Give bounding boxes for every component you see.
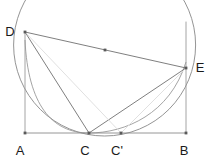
point-marker-B: [185, 132, 188, 135]
segment-group: [25, 22, 186, 133]
vertex-label-C-prime: C': [111, 143, 123, 158]
vertex-label-group: A C C' B D E: [5, 24, 204, 158]
segment-DC: [25, 32, 89, 133]
point-marker-A: [24, 132, 27, 135]
segment-DCprime: [25, 32, 121, 133]
point-marker-E: [185, 67, 188, 70]
geometry-figure: A C C' B D E: [0, 0, 215, 168]
vertex-label-A: A: [16, 143, 25, 158]
point-marker-C: [88, 132, 91, 135]
segment-EC: [89, 68, 186, 133]
vertex-label-B: B: [180, 143, 189, 158]
point-marker-D: [24, 31, 27, 34]
point-marker-DE-midpoint: [104, 49, 107, 52]
vertex-label-D: D: [5, 24, 14, 39]
vertex-label-C: C: [80, 143, 89, 158]
lower-arc: [25, 40, 186, 133]
point-marker-Cprime: [120, 132, 123, 135]
vertex-label-E: E: [196, 60, 205, 75]
figure-canvas: A C C' B D E: [0, 0, 215, 168]
point-marker-group: [24, 31, 188, 135]
